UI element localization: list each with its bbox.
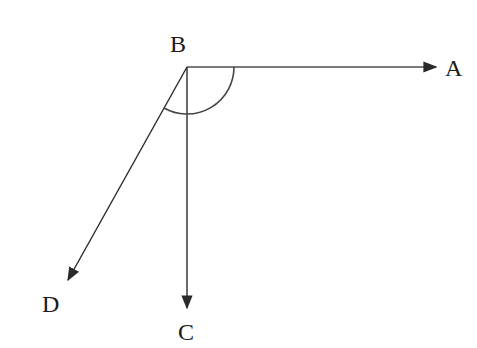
label-d: D [42,291,59,317]
label-a: A [445,55,463,81]
label-c: C [178,319,194,345]
angle-diagram: B A C D [0,0,477,348]
ray-bd [68,67,187,280]
label-b: B [170,31,186,57]
